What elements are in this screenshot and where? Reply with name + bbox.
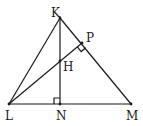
label-m: M [126,109,138,123]
segment-kl [9,18,60,104]
point-m [130,103,133,106]
label-l: L [5,109,13,123]
label-h: H [63,60,73,74]
label-p: P [86,31,94,45]
point-l [8,103,11,106]
label-n: N [56,109,67,123]
point-h [59,60,62,63]
point-n [59,103,62,106]
triangle-diagram: K P H L N M [0,0,143,126]
point-p [81,42,84,45]
label-k: K [51,6,61,20]
